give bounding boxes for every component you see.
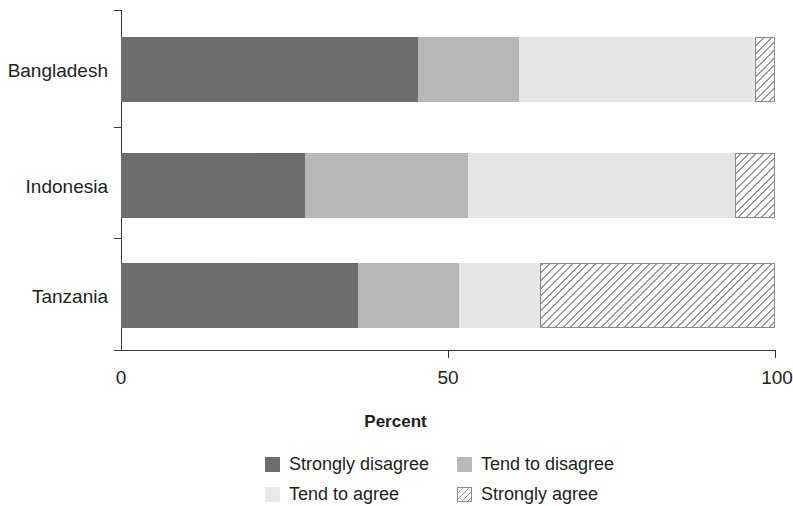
legend-swatch-strongly-agree-icon xyxy=(457,487,472,502)
plot-area xyxy=(121,10,775,350)
y-axis-tick-bottom xyxy=(114,350,121,351)
x-axis-title: Percent xyxy=(0,412,791,432)
y-axis-label-bangladesh: Bangladesh xyxy=(8,61,108,80)
y-axis-label-tanzania: Tanzania xyxy=(32,287,108,306)
legend-item-tend-to-agree: Tend to agree xyxy=(265,479,399,506)
segment-indonesia-strongly-disagree xyxy=(121,153,305,218)
legend-swatch-tend-to-disagree-icon xyxy=(457,457,472,472)
legend-swatch-strongly-disagree-icon xyxy=(265,457,280,472)
x-axis-tick-0 xyxy=(121,343,122,351)
legend-label-tend-to-disagree: Tend to disagree xyxy=(481,454,614,475)
segment-indonesia-tend-to-disagree xyxy=(305,153,469,218)
y-axis-tick-top xyxy=(114,10,121,11)
segment-bangladesh-strongly-agree xyxy=(755,37,775,102)
x-axis-ticklabel-0: 0 xyxy=(116,368,127,387)
legend-row-1: Strongly disagree Tend to disagree xyxy=(0,449,791,479)
legend-row-2: Tend to agree Strongly agree xyxy=(0,479,791,506)
segment-bangladesh-strongly-disagree xyxy=(121,37,418,102)
y-axis-label-indonesia: Indonesia xyxy=(26,177,108,196)
x-axis-ticklabel-50: 50 xyxy=(437,368,458,387)
legend: Strongly disagree Tend to disagree Tend … xyxy=(0,449,791,506)
segment-tanzania-strongly-disagree xyxy=(121,263,358,328)
legend-swatch-tend-to-agree-icon xyxy=(265,487,280,502)
segment-tanzania-tend-to-agree xyxy=(459,263,540,328)
legend-item-tend-to-disagree: Tend to disagree xyxy=(457,449,614,479)
y-axis-tick-1 xyxy=(114,127,121,128)
x-axis-ticklabel-100: 100 xyxy=(761,368,793,387)
legend-item-strongly-disagree: Strongly disagree xyxy=(265,449,429,479)
y-axis-tick-2 xyxy=(114,238,121,239)
legend-label-tend-to-agree: Tend to agree xyxy=(289,484,399,505)
segment-tanzania-strongly-agree xyxy=(540,263,775,328)
segment-indonesia-tend-to-agree xyxy=(468,153,735,218)
legend-item-strongly-agree: Strongly agree xyxy=(457,479,598,506)
x-axis-tick-50 xyxy=(448,350,449,358)
segment-bangladesh-tend-to-agree xyxy=(519,37,754,102)
x-axis-tick-100 xyxy=(775,350,776,358)
legend-label-strongly-disagree: Strongly disagree xyxy=(289,454,429,475)
segment-bangladesh-tend-to-disagree xyxy=(418,37,519,102)
legend-label-strongly-agree: Strongly agree xyxy=(481,484,598,505)
segment-indonesia-strongly-agree xyxy=(735,153,775,218)
segment-tanzania-tend-to-disagree xyxy=(358,263,459,328)
